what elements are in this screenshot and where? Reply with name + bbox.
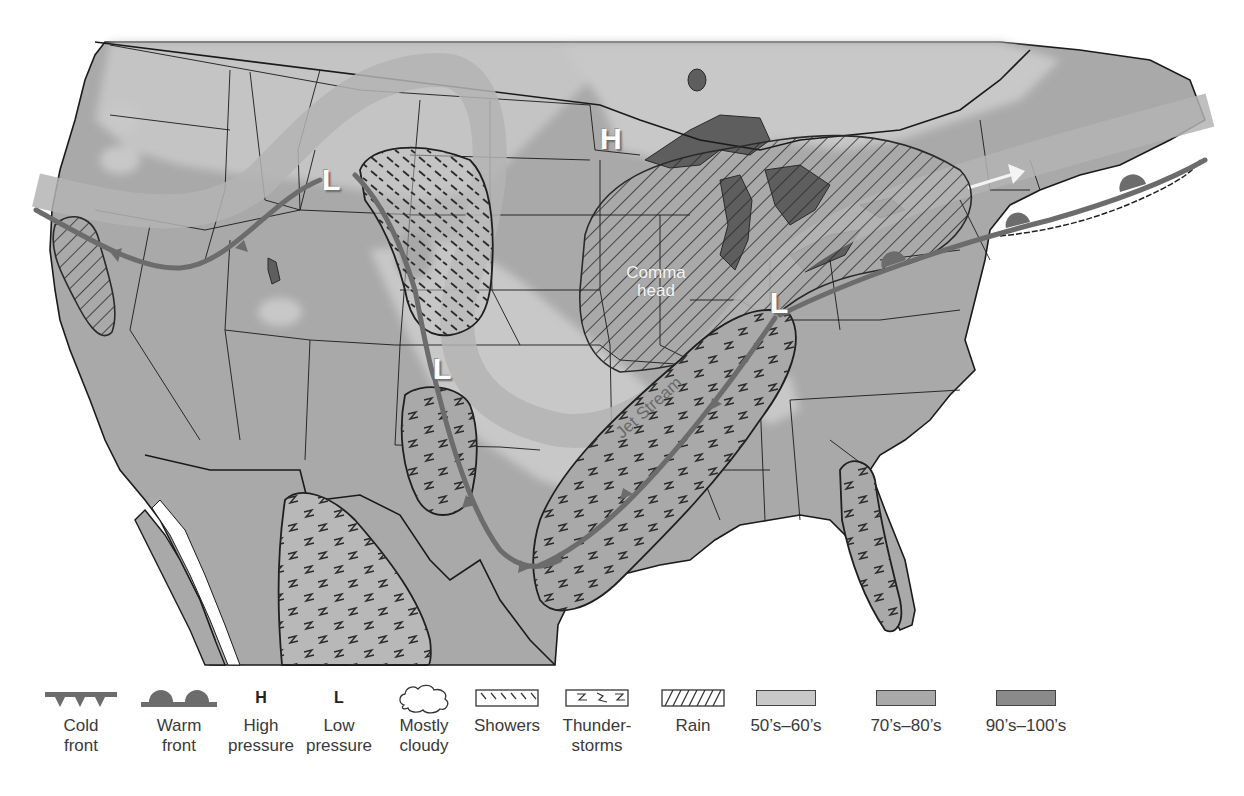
legend-label: front (134, 736, 224, 756)
legend-rain: Rain (648, 680, 738, 736)
legend-label: High (216, 716, 306, 736)
legend-label: Rain (648, 716, 738, 736)
legend-temp-50s-60s: 50’s–60’s (736, 680, 836, 736)
legend-temp-70s-80s: 70’s–80’s (856, 680, 956, 736)
low-pressure-label-colorado: L (433, 354, 451, 384)
legend-label: Thunder- (552, 716, 642, 736)
cloud-icon (396, 681, 452, 715)
cold-front-icon (45, 688, 117, 708)
legend-label: Cold (36, 716, 126, 736)
temp-90s-100s-swatch (996, 690, 1056, 706)
legend-mostly-cloudy: Mostly cloudy (384, 680, 464, 756)
legend-label: 90’s–100’s (968, 716, 1084, 736)
low-pressure-label-ohio: L (770, 288, 788, 318)
legend-high-pressure: H High pressure (216, 680, 306, 756)
legend-showers: Showers (462, 680, 552, 736)
thunderstorms-icon (565, 688, 629, 708)
high-pressure-icon: H (255, 689, 267, 707)
comma-head-label: Comma head (624, 264, 688, 300)
map-legend: Cold front Warm front H High pressure L … (36, 680, 1236, 790)
showers-icon (475, 688, 539, 708)
legend-cold-front: Cold front (36, 680, 126, 756)
legend-label: front (36, 736, 126, 756)
legend-label: pressure (216, 736, 306, 756)
weather-map: H L L L Comma head Jet Stream (0, 0, 1244, 670)
temp-70s-80s-swatch (876, 690, 936, 706)
legend-label: Showers (462, 716, 552, 736)
legend-label: Warm (134, 716, 224, 736)
low-pressure-icon: L (334, 689, 344, 707)
map-canvas (0, 0, 1244, 670)
legend-warm-front: Warm front (134, 680, 224, 756)
legend-label: pressure (294, 736, 384, 756)
legend-label: Low (294, 716, 384, 736)
legend-label: 50’s–60’s (736, 716, 836, 736)
legend-label: storms (552, 736, 642, 756)
legend-label: 70’s–80’s (856, 716, 956, 736)
legend-low-pressure: L Low pressure (294, 680, 384, 756)
isle-royale-lake (688, 69, 706, 91)
warm-front-icon (141, 687, 217, 709)
high-pressure-label: H (600, 124, 622, 154)
temp-50s-60s-swatch (756, 690, 816, 706)
comma-head-line1: Comma (624, 264, 688, 282)
legend-thunderstorms: Thunder- storms (552, 680, 642, 756)
low-pressure-label-montana: L (322, 165, 340, 195)
legend-label: Mostly (384, 716, 464, 736)
legend-temp-90s-100s: 90’s–100’s (968, 680, 1084, 736)
comma-head-line2: head (624, 282, 688, 300)
rain-icon (661, 688, 725, 708)
legend-label: cloudy (384, 736, 464, 756)
